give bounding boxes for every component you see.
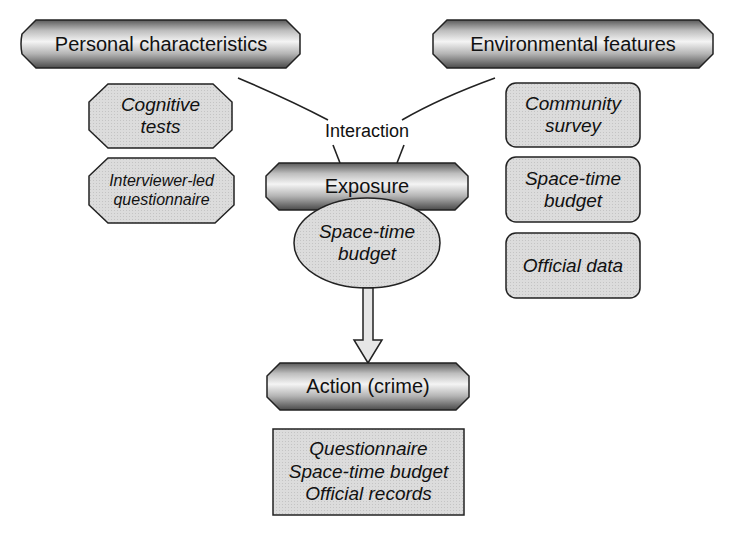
exposure-label: Exposure	[325, 175, 410, 198]
official-data-label: Official data	[523, 255, 623, 277]
space-time-budget-env-line1: Space-time	[525, 168, 621, 190]
environmental-features-label: Environmental features	[470, 33, 676, 56]
node-official-data: Official data	[506, 233, 640, 298]
node-interaction: Interaction	[307, 119, 427, 143]
community-survey-line1: Community	[525, 93, 621, 115]
edge-personal-interaction	[238, 78, 328, 120]
node-personal-characteristics: Personal characteristics	[22, 20, 300, 68]
space-time-budget-center-line2: budget	[338, 243, 396, 265]
down-arrow-icon	[354, 288, 382, 363]
node-action-measures: Questionnaire Space-time budget Official…	[273, 429, 464, 515]
space-time-budget-env-line2: budget	[544, 190, 602, 212]
cognitive-tests-line1: Cognitive	[121, 94, 200, 116]
node-community-survey: Community survey	[506, 83, 640, 147]
node-space-time-budget-env: Space-time budget	[506, 157, 640, 222]
edge-interaction-exposure-right	[397, 145, 404, 163]
node-space-time-budget-center: Space-time budget	[294, 198, 440, 288]
action-measure-space-time-budget: Space-time budget	[289, 461, 449, 484]
interaction-label: Interaction	[325, 121, 409, 142]
action-measure-official-records: Official records	[305, 483, 432, 506]
node-environmental-features: Environmental features	[433, 20, 713, 68]
space-time-budget-center-line1: Space-time	[319, 221, 415, 243]
cognitive-tests-line2: tests	[140, 116, 180, 138]
node-action-crime: Action (crime)	[267, 363, 469, 410]
interviewer-questionnaire-line2: questionnaire	[113, 191, 209, 209]
edge-interaction-exposure-left	[333, 145, 340, 163]
edge-environmental-interaction	[402, 78, 495, 120]
node-cognitive-tests: Cognitive tests	[89, 84, 232, 148]
node-interviewer-questionnaire: Interviewer-led questionnaire	[89, 158, 234, 223]
interviewer-questionnaire-line1: Interviewer-led	[109, 172, 214, 190]
action-crime-label: Action (crime)	[306, 375, 429, 398]
action-measure-questionnaire: Questionnaire	[309, 438, 427, 461]
community-survey-line2: survey	[545, 115, 601, 137]
personal-characteristics-label: Personal characteristics	[55, 33, 267, 56]
